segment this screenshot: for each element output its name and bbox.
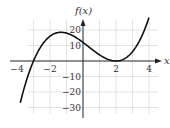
axes [10,19,162,118]
x-tick-label: −4 [10,64,24,74]
y-axis-arrow-icon [81,19,86,26]
x-axis-label: x [164,55,170,66]
function-curve [20,18,149,103]
x-tick-label: 4 [146,64,152,74]
x-tick-label: 2 [113,64,119,74]
chart: −4−2242010−10−20−30 f(x) x [0,0,170,128]
y-tick-label: 20 [70,25,82,35]
y-tick-label: −20 [62,87,81,97]
y-tick-label: −30 [62,103,81,113]
tick-labels: −4−2242010−10−20−30 [10,25,152,113]
y-tick-label: 10 [70,41,82,51]
x-tick-label: −2 [43,64,56,74]
y-axis-label: f(x) [74,5,92,16]
y-tick-label: −10 [62,72,81,82]
x-axis-arrow-icon [155,59,162,64]
